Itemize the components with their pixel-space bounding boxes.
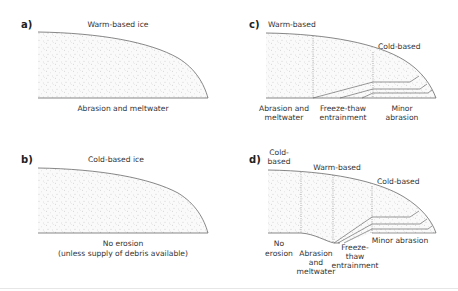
panel-d: d) Cold- based Warm-based Cold-based No … (249, 148, 436, 276)
glacier-thermal-regime-diagram: a) Warm-based ice Abrasion and meltwater… (0, 0, 458, 291)
zone-cold-label: Cold-based (377, 177, 420, 186)
ice-mass (38, 32, 208, 98)
panel-label: d) (249, 154, 261, 165)
caption-freeze-thaw: Freeze- (341, 243, 369, 252)
caption-no-erosion: No (274, 239, 285, 248)
caption-abrasion: meltwater (297, 267, 337, 276)
panel-label: b) (21, 154, 33, 165)
panel-title: Warm-based ice (87, 20, 148, 29)
caption-freeze-thaw: Freeze-thaw (320, 104, 366, 113)
panel-a: a) Warm-based ice Abrasion and meltwater (21, 19, 208, 113)
zone-cold-label: Cold- (269, 148, 289, 157)
caption: Abrasion and meltwater (77, 104, 169, 113)
caption-abrasion: Abrasion (299, 249, 333, 258)
caption-line-2: (unless supply of debris available) (58, 249, 188, 258)
caption-no-erosion: erosion (265, 249, 293, 258)
ice-mass (38, 168, 208, 233)
bottom-divider (0, 288, 458, 289)
zone-warm-label: Warm-based (268, 20, 316, 29)
caption-freeze-thaw: entrainment (319, 113, 366, 122)
panel-c: c) Warm-based Cold-based Abrasion and me… (249, 19, 436, 122)
caption-abrasion: meltwater (265, 113, 305, 122)
caption-minor-abrasion: abrasion (386, 113, 419, 122)
zone-warm-label: Warm-based (313, 163, 361, 172)
caption-minor-abrasion: Minor abrasion (372, 236, 429, 245)
panel-label: c) (249, 19, 260, 30)
caption-abrasion: and (309, 258, 323, 267)
zone-cold-label: Cold-based (378, 42, 421, 51)
zone-cold-label: based (268, 157, 291, 166)
panel-label: a) (21, 19, 32, 30)
caption-freeze-thaw: thaw (346, 252, 365, 261)
panel-b: b) Cold-based ice No erosion (unless sup… (21, 154, 208, 258)
caption-abrasion: Abrasion and (259, 104, 309, 113)
caption-freeze-thaw: entrainment (331, 261, 378, 270)
panel-title: Cold-based ice (88, 155, 144, 164)
caption-minor-abrasion: Minor (391, 104, 413, 113)
caption-line-1: No erosion (103, 239, 144, 248)
